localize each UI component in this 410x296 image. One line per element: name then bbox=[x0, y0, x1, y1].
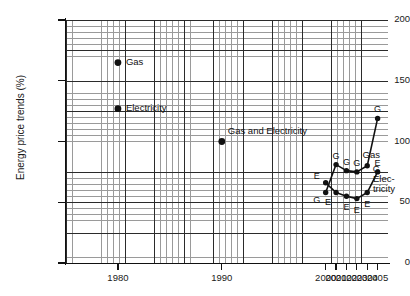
data-point bbox=[333, 162, 338, 167]
annotation-label: Electricity bbox=[126, 102, 167, 113]
gas-point-letter: G bbox=[313, 195, 320, 205]
data-point bbox=[333, 190, 338, 195]
gas-point-letter: G bbox=[353, 158, 360, 168]
electricity-series-line bbox=[326, 172, 378, 199]
data-point bbox=[323, 180, 328, 185]
data-point bbox=[344, 168, 349, 173]
data-point bbox=[115, 59, 122, 66]
data-point bbox=[354, 169, 359, 174]
annotation-label: Gas bbox=[363, 149, 380, 160]
electricity-point-letter: E bbox=[314, 171, 320, 181]
series-layer bbox=[0, 0, 410, 296]
annotation-label: Gas bbox=[126, 56, 143, 67]
gas-point-letter: G bbox=[333, 151, 340, 161]
data-point bbox=[218, 138, 225, 145]
data-point bbox=[354, 196, 359, 201]
annotation-label: tricity bbox=[373, 183, 395, 194]
electricity-point-letter: E bbox=[343, 202, 349, 212]
data-point bbox=[344, 193, 349, 198]
data-point bbox=[375, 116, 380, 121]
electricity-point-letter: E bbox=[325, 197, 331, 207]
energy-price-trends-chart: Energy price trends (%) 050100150200 198… bbox=[0, 0, 410, 296]
annotation-label: Gas and Electricity bbox=[228, 125, 307, 136]
data-point bbox=[115, 105, 122, 112]
data-point bbox=[365, 190, 370, 195]
gas-point-letter: G bbox=[374, 104, 381, 114]
gas-point-letter: G bbox=[343, 157, 350, 167]
data-point bbox=[365, 163, 370, 168]
data-point bbox=[323, 190, 328, 195]
electricity-point-letter: E bbox=[364, 199, 370, 209]
electricity-point-letter: E bbox=[354, 205, 360, 215]
